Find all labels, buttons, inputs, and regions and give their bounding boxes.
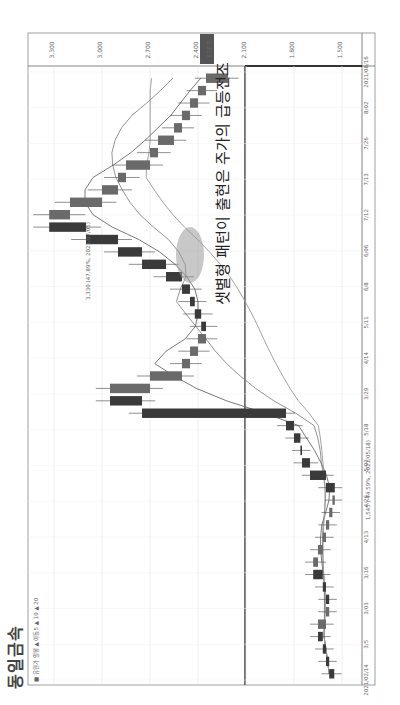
svg-text:3,300: 3,300 [48, 41, 55, 58]
svg-text:4/13: 4/13 [363, 530, 369, 543]
svg-text:2021/08/16: 2021/08/16 [363, 56, 369, 88]
svg-text:6/8: 6/8 [363, 282, 369, 291]
pattern-highlight-ellipse [176, 227, 204, 283]
svg-text:8/02: 8/02 [363, 102, 369, 114]
svg-text:2,213: 2,213 [206, 40, 213, 57]
svg-text:1,800: 1,800 [288, 41, 295, 58]
chart-legend: ■ 유원가 일봉 ▲ 이동5 ▲ 10 ▲ 20 [32, 597, 40, 682]
high-marker: 3,330 (47.89%, 2021/07/05) [85, 222, 91, 300]
svg-text:3/16: 3/16 [363, 566, 369, 579]
svg-text:7/12: 7/12 [363, 209, 369, 221]
svg-text:7/13: 7/13 [363, 173, 369, 186]
svg-text:3/5: 3/5 [363, 639, 369, 648]
svg-text:5/18: 5/18 [363, 423, 369, 436]
svg-text:3,000: 3,000 [96, 41, 103, 58]
svg-text:2,100: 2,100 [240, 41, 247, 58]
handwritten-annotation: 샛별형 패턴이 출현은 주가의 급등전조 [214, 62, 232, 305]
svg-text:2021/02/14: 2021/02/14 [363, 664, 369, 696]
svg-text:7/26: 7/26 [363, 137, 369, 150]
svg-text:2,400: 2,400 [192, 41, 199, 58]
svg-text:2,700: 2,700 [144, 41, 151, 58]
svg-text:3/29: 3/29 [363, 387, 369, 400]
svg-text:1,500: 1,500 [336, 41, 343, 58]
svg-text:3/03: 3/03 [363, 602, 369, 615]
candlestick-chart: 3,3003,0002,7002,4002,1001,8001,500 2021… [0, 0, 400, 705]
svg-text:5/11: 5/11 [363, 316, 369, 328]
current-price-badge: 2,213 [200, 34, 214, 64]
svg-text:4/14: 4/14 [363, 351, 369, 364]
svg-text:6/06: 6/06 [363, 244, 369, 257]
low-marker: 1,545 (-44.59%, 2021/05/18) [365, 440, 371, 520]
